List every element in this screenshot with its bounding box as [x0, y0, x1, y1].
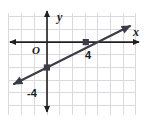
- x-tick-label-4: 4: [85, 50, 91, 61]
- grid-vertical-lines: [9, 13, 136, 115]
- y-axis-label: y: [57, 11, 62, 23]
- x-axis-label: x: [133, 26, 139, 38]
- coordinate-plane-svg: [0, 0, 149, 122]
- coordinate-plane-figure: O y x 4 -4: [0, 0, 149, 122]
- y-tick-label-negative-4: -4: [27, 88, 37, 99]
- origin-label: O: [32, 45, 40, 56]
- point-marker-x-intercept: [83, 39, 89, 45]
- point-marker-y-intercept: [44, 64, 50, 70]
